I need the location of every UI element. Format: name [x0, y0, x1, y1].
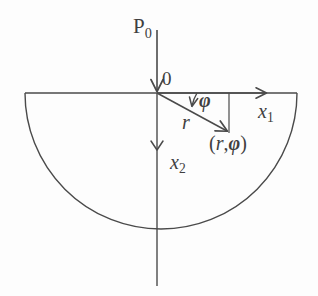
half-plane-polar-coordinates-diagram	[0, 0, 318, 296]
point-coordinates-label: (r,φ)	[209, 133, 247, 153]
angle-arc-phi	[192, 93, 197, 106]
radius-label: r	[182, 112, 190, 132]
origin-label: 0	[162, 69, 172, 88]
figure-container: P0 0 x1 x2 r φ (r,φ)	[0, 0, 318, 296]
angle-label: φ	[199, 90, 211, 110]
load-label: P0	[133, 16, 152, 40]
x1-axis-label: x1	[258, 101, 274, 125]
x2-axis-label: x2	[170, 152, 186, 176]
half-plane-boundary-arc	[25, 93, 297, 229]
radius-vector-arrow	[157, 93, 227, 131]
